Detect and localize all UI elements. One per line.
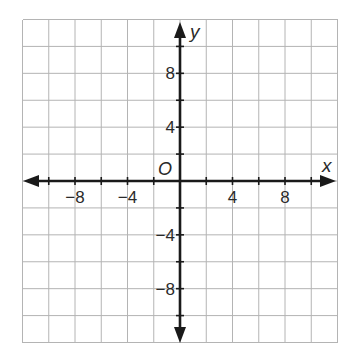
x-axis-label: x: [321, 155, 333, 176]
y-axis-down-arrow-icon: [174, 327, 186, 343]
y-axis-up-arrow-icon: [174, 22, 186, 38]
y-axis-label: y: [188, 21, 201, 42]
axes: [23, 22, 336, 343]
x-tick-label: 4: [228, 188, 237, 207]
x-tick-label: −8: [65, 188, 84, 207]
coordinate-plane: −8−44884−4−8 x y O: [0, 0, 357, 349]
y-tick-label: −8: [156, 280, 175, 299]
x-tick-label: −4: [118, 188, 137, 207]
y-tick-label: 4: [166, 118, 175, 137]
y-tick-label: −4: [156, 226, 175, 245]
origin-label: O: [158, 159, 172, 179]
x-tick-label: 8: [280, 188, 289, 207]
x-axis-left-arrow-icon: [23, 175, 39, 187]
x-axis-right-arrow-icon: [320, 175, 336, 187]
y-tick-label: 8: [166, 64, 175, 83]
